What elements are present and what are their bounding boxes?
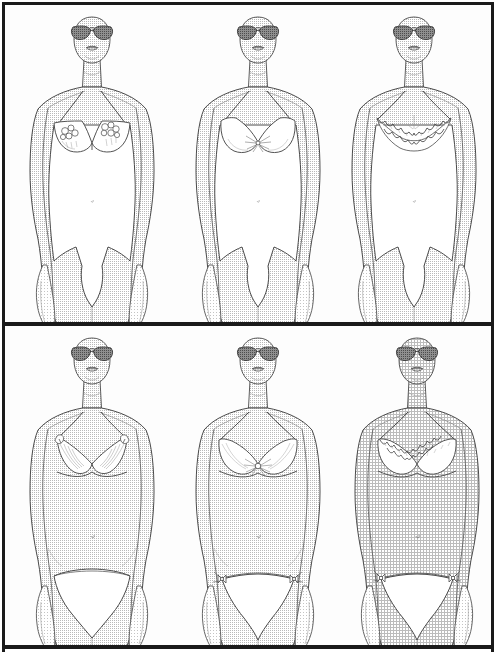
figure-head-sunglasses xyxy=(71,17,112,63)
figure-head-sunglasses xyxy=(393,17,434,63)
center-gather xyxy=(256,141,260,145)
frame-border-bottom xyxy=(2,645,494,649)
center-bow xyxy=(255,463,261,469)
lower-panel xyxy=(5,326,491,645)
figure-bra-set-underwire-bow xyxy=(171,326,345,645)
figure-bra-set-feathered-triangle xyxy=(5,326,179,645)
figure-head-sunglasses xyxy=(237,338,278,384)
figure-head-sunglasses xyxy=(237,17,278,63)
figure-head-sunglasses xyxy=(396,338,437,384)
figure-head-sunglasses xyxy=(71,338,112,384)
illustration-page xyxy=(0,0,498,662)
figure-bra-set-scalloped-lace xyxy=(337,326,491,645)
figure-bodysuit-plunge xyxy=(171,5,345,322)
frame-border-right xyxy=(491,2,494,652)
upper-panel xyxy=(5,5,491,322)
figure-bodysuit-floral xyxy=(5,5,179,322)
figure-bodysuit-scalloped-lace xyxy=(334,5,491,322)
